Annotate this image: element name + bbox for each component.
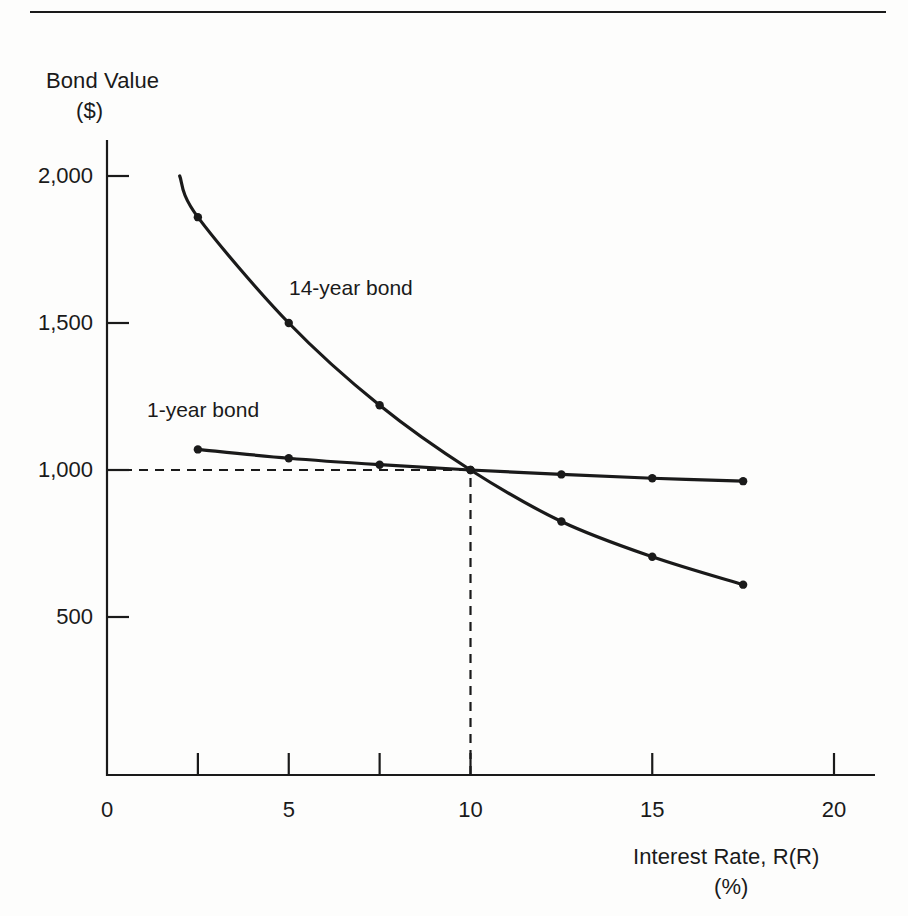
data-point-marker bbox=[739, 580, 747, 588]
data-point-marker bbox=[194, 445, 202, 453]
data-point-marker bbox=[194, 213, 202, 221]
axes-group bbox=[107, 140, 875, 776]
series-line bbox=[198, 449, 743, 481]
data-point-marker bbox=[375, 461, 383, 469]
data-point-marker bbox=[557, 470, 565, 478]
x-axis-ticks bbox=[198, 753, 834, 775]
chart-figure: Bond Value ($) Interest Rate, R(R) (%) 1… bbox=[0, 0, 908, 916]
data-point-marker bbox=[648, 553, 656, 561]
data-point-marker bbox=[285, 454, 293, 462]
y-axis-ticks bbox=[107, 176, 129, 617]
chart-plot-area bbox=[0, 0, 908, 916]
data-point-marker bbox=[466, 466, 474, 474]
series-line bbox=[180, 176, 743, 585]
data-point-marker bbox=[557, 517, 565, 525]
data-point-marker bbox=[739, 477, 747, 485]
data-point-marker bbox=[648, 474, 656, 482]
reference-lines bbox=[107, 470, 471, 775]
data-series-group bbox=[180, 176, 743, 585]
data-point-marker bbox=[285, 319, 293, 327]
data-point-marker bbox=[375, 401, 383, 409]
